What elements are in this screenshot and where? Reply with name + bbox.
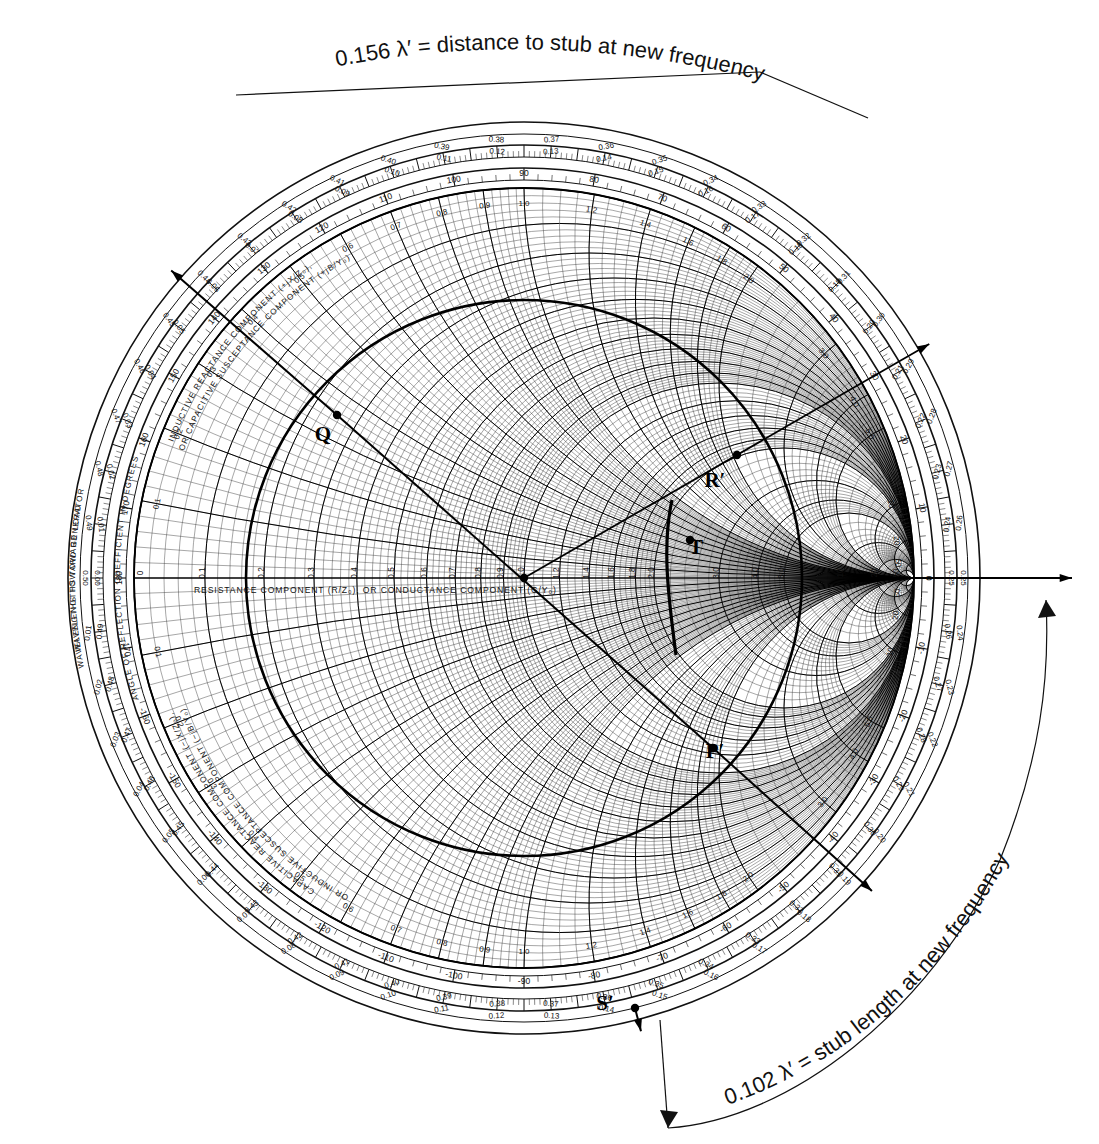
point-marker-p: P′ — [706, 739, 725, 763]
svg-text:1.6: 1.6 — [607, 567, 616, 579]
svg-text:1.8: 1.8 — [628, 567, 637, 579]
svg-text:0.13: 0.13 — [543, 146, 560, 156]
svg-text:0.37: 0.37 — [543, 999, 560, 1009]
svg-text:-80: -80 — [587, 969, 601, 981]
svg-text:0.37: 0.37 — [543, 134, 560, 144]
svg-text:0.9: 0.9 — [496, 567, 505, 579]
svg-text:0.4: 0.4 — [350, 567, 359, 579]
point-marker-t: T — [686, 535, 703, 559]
svg-text:20: 20 — [891, 610, 901, 620]
svg-text:50: 50 — [893, 588, 902, 598]
svg-text:1.4: 1.4 — [582, 567, 591, 579]
svg-text:90: 90 — [519, 168, 529, 178]
svg-text:0.2: 0.2 — [257, 567, 266, 579]
svg-text:0.9: 0.9 — [479, 944, 492, 954]
point-marker-c — [520, 574, 528, 582]
svg-text:1.0: 1.0 — [518, 947, 530, 956]
svg-text:4.0: 4.0 — [751, 567, 760, 579]
svg-text:0.00: 0.00 — [93, 570, 102, 586]
svg-text:0.50: 0.50 — [81, 570, 90, 586]
svg-text:0.9: 0.9 — [479, 201, 492, 211]
svg-text:-90: -90 — [518, 976, 531, 986]
svg-text:10: 10 — [836, 568, 845, 578]
svg-text:50: 50 — [892, 568, 901, 578]
svg-text:0.7: 0.7 — [448, 567, 457, 579]
svg-text:0.12: 0.12 — [488, 1011, 505, 1021]
point-label-q: Q — [315, 422, 331, 446]
svg-text:0.5: 0.5 — [387, 567, 396, 579]
svg-text:0.3: 0.3 — [307, 567, 316, 579]
svg-text:5.0: 5.0 — [777, 567, 786, 579]
svg-text:20: 20 — [870, 568, 879, 578]
smith-chart-figure: 0102030405060708090100110120130140150160… — [0, 0, 1099, 1144]
svg-text:1.0: 1.0 — [518, 199, 530, 208]
svg-text:0.12: 0.12 — [489, 146, 506, 156]
point-label-p: P′ — [706, 739, 725, 763]
svg-text:0: 0 — [136, 570, 145, 575]
point-label-t: T — [689, 535, 703, 559]
point-label-r: R′ — [704, 468, 725, 492]
svg-text:0.13: 0.13 — [544, 1011, 561, 1021]
svg-text:1.2: 1.2 — [552, 567, 561, 579]
svg-text:50: 50 — [893, 558, 902, 568]
svg-text:10: 10 — [917, 502, 929, 513]
svg-text:2.0: 2.0 — [647, 567, 656, 579]
svg-text:0.38: 0.38 — [489, 999, 506, 1009]
svg-text:3.0: 3.0 — [712, 567, 721, 579]
svg-text:0.1: 0.1 — [198, 567, 207, 579]
svg-text:0.8: 0.8 — [474, 567, 483, 579]
svg-text:0.38: 0.38 — [488, 134, 505, 144]
point-label-s: S′ — [596, 991, 614, 1015]
svg-text:20: 20 — [892, 536, 902, 546]
svg-text:0.6: 0.6 — [420, 567, 429, 579]
svg-text:80: 80 — [589, 174, 600, 186]
svg-text:RESISTANCE COMPONENT (R/Z₀), O: RESISTANCE COMPONENT (R/Z₀), OR CONDUCTA… — [194, 585, 557, 595]
smith-chart-svg: 0102030405060708090100110120130140150160… — [0, 0, 1099, 1144]
